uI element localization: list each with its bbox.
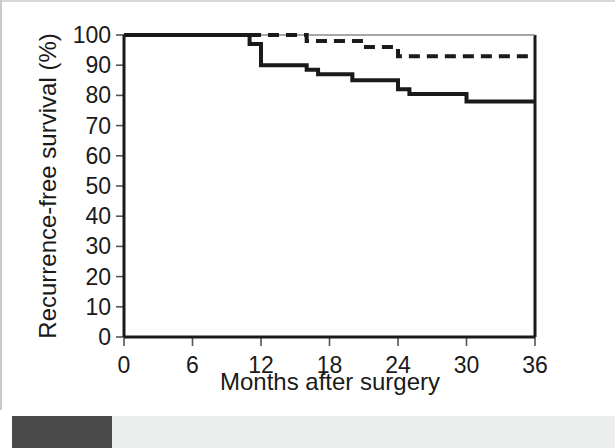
y-tick-label: 100 [73,22,111,48]
axes-frame [124,35,535,337]
y-tick-label: 40 [85,203,111,229]
series-dashed-curve [124,35,535,56]
scan-bottom-strip-marker [12,416,112,448]
x-tick-label: 12 [248,352,274,378]
y-tick-label: 0 [98,324,111,350]
y-tick-label: 50 [85,173,111,199]
y-tick-label: 30 [85,233,111,259]
x-tick-label: 36 [522,352,548,378]
y-tick-label: 10 [85,294,111,320]
x-tick-label: 18 [317,352,343,378]
y-tick-label: 60 [85,143,111,169]
x-tick-label: 30 [454,352,480,378]
scan-bottom-strip-edge [0,416,12,448]
y-tick-label: 90 [85,52,111,78]
figure-root: Recurrence-free survival (%) Months afte… [0,0,615,448]
chart-plot-area: Recurrence-free survival (%) Months afte… [0,0,615,410]
y-tick-label: 70 [85,113,111,139]
y-tick-group: 0102030405060708090100 [73,22,124,350]
x-tick-label: 0 [118,352,131,378]
x-tick-label: 6 [186,352,199,378]
x-tick-label: 24 [385,352,411,378]
y-tick-label: 80 [85,82,111,108]
data-series-group [124,35,535,101]
y-tick-label: 20 [85,264,111,290]
series-solid-curve [124,35,535,101]
recurrence-free-survival-chart: Recurrence-free survival (%) Months afte… [0,0,615,410]
x-tick-group: 061218243036 [118,337,548,378]
y-axis-title: Recurrence-free survival (%) [34,33,61,338]
